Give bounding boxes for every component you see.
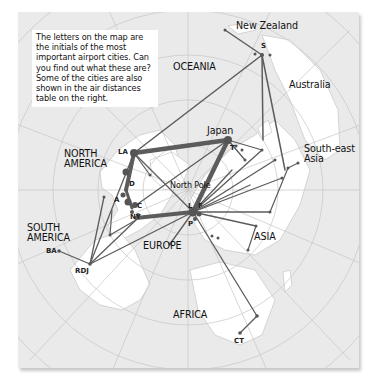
label-asia: ASIA	[254, 232, 276, 242]
city-sydney: S	[261, 42, 266, 50]
label-southeast-asia-2: Asia	[304, 154, 324, 164]
label-north-pole: North Pole	[170, 181, 211, 191]
city-frankfurt: F	[198, 202, 203, 210]
city-denver: D	[129, 180, 135, 188]
city-rio-de-janeiro: RDJ	[75, 267, 89, 275]
label-africa: AFRICA	[173, 310, 207, 320]
label-europe: EUROPE	[143, 241, 182, 251]
city-new-york: NY	[130, 213, 141, 221]
city-chicago: C	[137, 202, 142, 210]
label-oceania: OCEANIA	[173, 62, 216, 72]
airline-route-map: The letters on the map are the initials …	[18, 12, 359, 368]
label-japan: Japan	[207, 126, 233, 136]
city-atlanta: A	[114, 196, 119, 204]
map-caption: The letters on the map are the initials …	[32, 30, 158, 107]
city-london: L	[188, 202, 192, 210]
label-australia: Australia	[289, 80, 331, 90]
label-new-zealand: New Zealand	[236, 21, 298, 31]
city-paris: P	[188, 220, 193, 228]
city-cape-town: CT	[234, 337, 244, 345]
label-north-america-2: AMERICA	[64, 159, 107, 169]
city-buenos-aires: BA	[46, 247, 57, 255]
city-los-angeles: LA	[118, 148, 128, 156]
city-tokyo: T	[230, 144, 235, 152]
label-south-america-2: AMERICA	[27, 233, 70, 243]
